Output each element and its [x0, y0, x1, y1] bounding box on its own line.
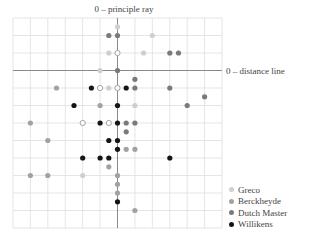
data-point-willikens: [115, 103, 120, 108]
data-point-dutch-master: [167, 50, 172, 55]
data-point-greco-open: [98, 85, 103, 90]
legend-label: Dutch Master: [238, 208, 287, 218]
data-point-willikens: [89, 85, 94, 90]
data-point-dutch-master: [185, 103, 190, 108]
data-point-greco: [80, 173, 85, 178]
data-point-berckheyde: [124, 147, 129, 152]
legend-item-willikens: Willikens: [229, 219, 287, 231]
data-point-greco-open: [115, 50, 120, 55]
data-point-dutch-master: [132, 120, 137, 125]
legend-item-dutch-master: Dutch Master: [229, 207, 287, 219]
data-point-greco: [150, 33, 155, 38]
legend-item-berckheyde: Berckheyde: [229, 196, 287, 208]
willikens-marker-icon: [229, 222, 234, 227]
data-point-willikens: [106, 138, 111, 143]
data-point-willikens: [124, 85, 129, 90]
greco-marker-icon: [229, 187, 234, 192]
data-point-berckheyde: [54, 85, 59, 90]
data-point-greco: [98, 68, 103, 73]
data-point-greco-open: [115, 85, 120, 90]
data-point-greco-open: [80, 120, 85, 125]
data-point-greco: [141, 50, 146, 55]
dutch-master-marker-icon: [229, 210, 234, 215]
data-point-willikens: [71, 103, 76, 108]
data-point-dutch-master: [115, 68, 120, 73]
data-point-willikens: [167, 155, 172, 160]
legend-label: Greco: [238, 185, 260, 195]
data-point-willikens: [98, 120, 103, 125]
data-point-dutch-master: [115, 33, 120, 38]
data-point-dutch-master: [124, 120, 129, 125]
data-point-willikens: [115, 147, 120, 152]
data-point-berckheyde: [28, 120, 33, 125]
legend: Greco Berckheyde Dutch Master Willikens: [229, 184, 287, 230]
berckheyde-marker-icon: [229, 199, 234, 204]
data-point-berckheyde: [132, 208, 137, 213]
data-point-berckheyde: [98, 103, 103, 108]
data-point-berckheyde: [106, 164, 111, 169]
data-point-berckheyde: [115, 182, 120, 187]
principle-ray-label: 0 – principle ray: [94, 4, 154, 14]
data-point-dutch-master: [202, 94, 207, 99]
data-point-dutch-master: [132, 77, 137, 82]
data-point-dutch-master: [176, 50, 181, 55]
legend-label: Berckheyde: [238, 196, 281, 206]
data-point-dutch-master: [132, 85, 137, 90]
data-point-dutch-master: [124, 129, 129, 134]
data-point-berckheyde: [115, 173, 120, 178]
data-point-greco: [132, 103, 137, 108]
data-point-greco: [106, 85, 111, 90]
data-point-berckheyde: [28, 173, 33, 178]
data-point-willikens: [80, 155, 85, 160]
data-point-berckheyde: [45, 138, 50, 143]
data-point-berckheyde: [45, 173, 50, 178]
data-point-willikens: [115, 138, 120, 143]
legend-label: Willikens: [238, 219, 273, 229]
data-point-greco: [106, 50, 111, 55]
distance-line-label: 0 – distance line: [226, 66, 285, 76]
data-point-willikens: [98, 155, 103, 160]
data-point-willikens: [106, 155, 111, 160]
data-point-berckheyde: [115, 190, 120, 195]
legend-item-greco: Greco: [229, 184, 287, 196]
data-point-dutch-master: [167, 85, 172, 90]
data-point-dutch-master: [106, 33, 111, 38]
data-point-berckheyde: [132, 147, 137, 152]
data-point-willikens: [115, 120, 120, 125]
data-point-greco-open: [106, 120, 111, 125]
data-point-greco: [115, 24, 120, 29]
data-point-willikens: [115, 199, 120, 204]
